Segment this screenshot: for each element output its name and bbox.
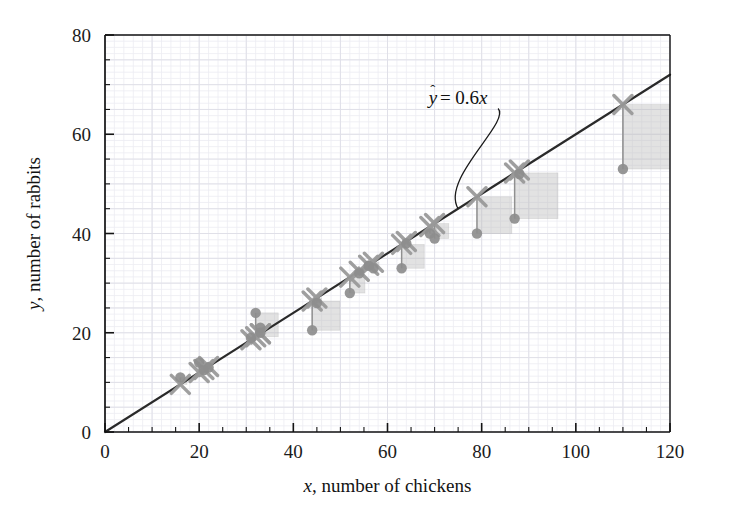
y-tick-label: 0 bbox=[82, 422, 92, 443]
y-tick-label: 60 bbox=[72, 124, 91, 145]
chart-background bbox=[0, 0, 729, 515]
y-tick-label: 80 bbox=[72, 25, 91, 46]
regression-residual-chart: 020406080100120 020406080 yˆ = 0.6x x, n… bbox=[0, 0, 729, 515]
y-axis-title: y, number of rabbits bbox=[23, 157, 44, 312]
x-tick-label: 20 bbox=[190, 441, 209, 462]
x-tick-label: 40 bbox=[284, 441, 303, 462]
x-tick-label: 120 bbox=[656, 441, 685, 462]
y-tick-label: 20 bbox=[72, 323, 91, 344]
x-tick-label: 0 bbox=[100, 441, 110, 462]
x-tick-label: 80 bbox=[472, 441, 491, 462]
x-tick-label: 60 bbox=[378, 441, 397, 462]
chart-canvas: 020406080100120 020406080 yˆ = 0.6x x, n… bbox=[0, 0, 729, 515]
y-tick-label: 40 bbox=[72, 224, 91, 245]
x-tick-label: 100 bbox=[562, 441, 591, 462]
x-axis-title: x, number of chickens bbox=[303, 475, 472, 496]
